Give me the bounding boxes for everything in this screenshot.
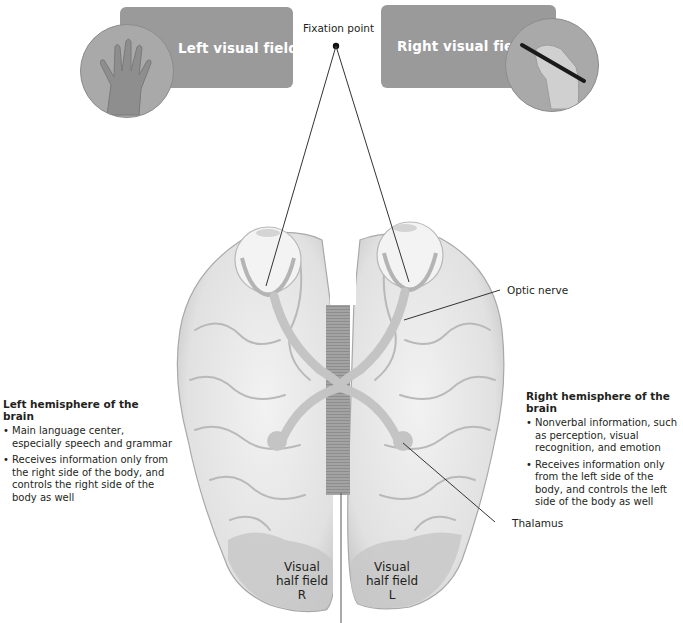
right-hemisphere-bullet: Nonverbal information, such as perceptio… <box>526 417 683 455</box>
brain-diagram <box>0 0 683 623</box>
right-hemisphere-title: Right hemisphere of the brain <box>526 390 683 414</box>
left-hemisphere-bullet: Main language center, especially speech … <box>3 425 173 450</box>
right-hemisphere-description: Right hemisphere of the brain Nonverbal … <box>526 390 683 513</box>
left-hemisphere-title: Left hemisphere of the brain <box>3 398 173 422</box>
corpus-callosum <box>326 305 350 495</box>
right-thalamus <box>393 431 413 451</box>
right-hemisphere-bullet: Receives information only from the left … <box>526 459 683 509</box>
thalamus-label: Thalamus <box>512 517 563 529</box>
visual-half-field-l: Visual half field L <box>364 560 420 602</box>
left-hemisphere-description: Left hemisphere of the brain Main langua… <box>3 398 173 508</box>
right-eye <box>377 222 443 288</box>
left-thalamus <box>267 431 287 451</box>
optic-nerve-label: Optic nerve <box>507 284 568 296</box>
left-hemisphere-bullet: Receives information only from the right… <box>3 454 173 504</box>
visual-half-field-r: Visual half field R <box>274 560 330 602</box>
